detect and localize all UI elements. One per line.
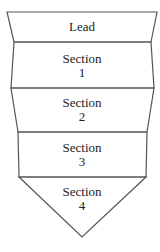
label-number: 4 <box>0 199 160 213</box>
label-line: Section <box>0 96 160 110</box>
label-line: Section <box>0 185 160 199</box>
label-lead: Lead <box>0 20 160 34</box>
label-line: Lead <box>0 20 160 34</box>
label-section-3: Section 3 <box>0 141 160 169</box>
label-line: Section <box>0 52 160 66</box>
label-line: Section <box>0 141 160 155</box>
label-section-2: Section 2 <box>0 96 160 124</box>
label-number: 2 <box>0 110 160 124</box>
funnel-diagram <box>0 0 160 252</box>
label-number: 1 <box>0 66 160 80</box>
label-section-1: Section 1 <box>0 52 160 80</box>
label-section-4: Section 4 <box>0 185 160 213</box>
label-number: 3 <box>0 155 160 169</box>
